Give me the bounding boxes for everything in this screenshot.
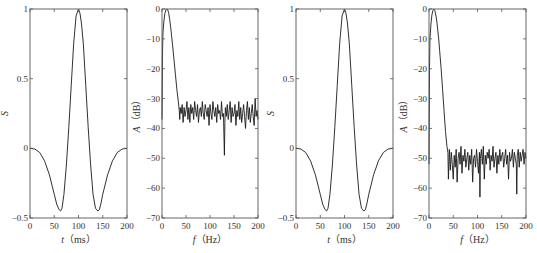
axes-frame [30, 9, 127, 218]
panel-spectrum-2: 050100150200−70−60−50−40−30−20−100f（Hz）A… [398, 4, 533, 245]
data-line-wavelet [296, 9, 393, 211]
x-tick-label: 0 [160, 221, 165, 231]
y-tick-label: −70 [413, 213, 428, 223]
x-tick-label: 50 [50, 221, 60, 231]
y-tick-label: 0 [156, 4, 161, 14]
x-axis-label: f（Hz） [193, 234, 227, 245]
y-tick-label: −10 [146, 34, 161, 44]
y-tick-label: −40 [146, 123, 161, 133]
x-axis-label: t（ms） [327, 234, 361, 245]
x-tick-label: 0 [28, 221, 33, 231]
y-tick-label: −40 [413, 123, 428, 133]
data-line-amplitude-spectrum [162, 9, 258, 155]
data-line-wavelet [30, 9, 127, 211]
y-tick-label: −20 [413, 64, 428, 74]
x-tick-label: 50 [316, 221, 326, 231]
x-tick-label: 100 [338, 221, 352, 231]
x-tick-label: 100 [203, 221, 217, 231]
axes-frame [429, 9, 526, 218]
y-tick-label: −60 [413, 183, 428, 193]
y-tick-label: 0.5 [283, 74, 295, 84]
data-line-amplitude-spectrum [429, 9, 526, 197]
y-tick-label: −60 [146, 183, 161, 193]
x-tick-label: 200 [386, 221, 400, 231]
x-tick-label: 0 [294, 221, 299, 231]
y-tick-label: −50 [146, 153, 161, 163]
x-tick-label: 100 [471, 221, 485, 231]
y-tick-label: −0.5 [12, 213, 29, 223]
x-tick-label: 200 [120, 221, 134, 231]
y-tick-label: 1 [24, 4, 29, 14]
y-axis-label: A（dB） [398, 95, 409, 134]
y-tick-label: 0 [290, 143, 295, 153]
x-tick-label: 200 [251, 221, 265, 231]
figure-canvas: 050100150200−0.500.51t（ms）S 050100150200… [0, 0, 537, 253]
y-tick-label: 0 [423, 4, 428, 14]
x-axis-label: f（Hz） [460, 234, 494, 245]
y-tick-label: −70 [146, 213, 161, 223]
y-tick-label: −0.5 [278, 213, 295, 223]
x-tick-label: 50 [182, 221, 192, 231]
panel-wavelet-2: 050100150200−0.500.51t（ms）S [265, 4, 400, 245]
y-axis-label: S [0, 111, 10, 116]
x-tick-label: 150 [495, 221, 509, 231]
y-tick-label: −50 [413, 153, 428, 163]
x-axis-label: t（ms） [61, 234, 95, 245]
x-tick-label: 150 [96, 221, 110, 231]
x-tick-label: 0 [427, 221, 432, 231]
panel-wavelet-1: 050100150200−0.500.51t（ms）S [0, 4, 134, 245]
panel-spectrum-1: 050100150200−70−60−50−40−30−20−100f（Hz）A… [131, 4, 265, 245]
y-tick-label: 1 [290, 4, 295, 14]
x-tick-label: 150 [362, 221, 376, 231]
y-tick-label: −20 [146, 64, 161, 74]
x-tick-label: 50 [449, 221, 459, 231]
x-tick-label: 200 [519, 221, 533, 231]
x-tick-label: 150 [227, 221, 241, 231]
y-tick-label: −30 [413, 94, 428, 104]
y-axis-label: S [265, 111, 276, 116]
y-tick-label: −10 [413, 34, 428, 44]
x-tick-label: 100 [72, 221, 86, 231]
y-tick-label: 0 [24, 143, 29, 153]
y-axis-label: A（dB） [131, 95, 142, 134]
y-tick-label: 0.5 [17, 74, 29, 84]
y-tick-label: −30 [146, 94, 161, 104]
axes-frame [296, 9, 393, 218]
